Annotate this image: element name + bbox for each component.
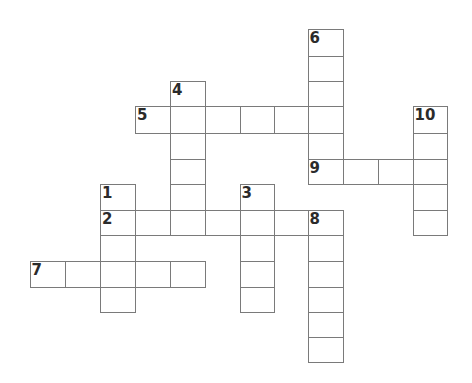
crossword-cell[interactable] <box>413 133 448 160</box>
crossword-cell[interactable] <box>135 261 171 288</box>
crossword-cell[interactable] <box>308 81 344 107</box>
crossword-cell[interactable] <box>413 159 448 185</box>
crossword-cell[interactable]: 4 <box>170 81 206 107</box>
crossword-cell[interactable]: 5 <box>135 106 171 134</box>
crossword-cell[interactable] <box>205 210 241 236</box>
crossword-cell[interactable]: 2 <box>100 210 136 236</box>
crossword-cell[interactable] <box>240 106 275 134</box>
crossword-cell[interactable]: 3 <box>240 184 275 211</box>
crossword-cell[interactable] <box>343 159 379 185</box>
clue-number: 5 <box>137 106 147 124</box>
crossword-cell[interactable] <box>308 56 344 82</box>
clue-number: 3 <box>242 184 252 202</box>
clue-number: 8 <box>310 210 320 228</box>
crossword-cell[interactable] <box>65 261 102 288</box>
crossword-cell[interactable] <box>308 133 344 160</box>
crossword-cell[interactable] <box>413 184 448 211</box>
crossword-cell[interactable] <box>100 287 136 313</box>
crossword-cell[interactable] <box>240 287 275 313</box>
clue-number: 1 <box>102 184 112 202</box>
crossword-cell[interactable] <box>170 261 206 288</box>
crossword-cell[interactable] <box>308 287 344 313</box>
clue-number: 9 <box>310 159 320 177</box>
crossword-cell[interactable] <box>308 337 344 363</box>
crossword-cell[interactable] <box>274 106 309 134</box>
crossword-cell[interactable] <box>308 235 344 262</box>
clue-number: 2 <box>102 210 112 228</box>
crossword-cell[interactable] <box>378 159 414 185</box>
clue-number: 6 <box>310 29 320 47</box>
crossword-cell[interactable] <box>135 210 171 236</box>
crossword-cell[interactable] <box>170 106 206 134</box>
crossword-cell[interactable] <box>240 210 275 236</box>
crossword-grid: 12834569710 <box>0 0 472 383</box>
crossword-cell[interactable]: 6 <box>308 29 344 57</box>
crossword-cell[interactable] <box>205 106 241 134</box>
crossword-cell[interactable]: 8 <box>308 210 344 236</box>
crossword-cell[interactable]: 7 <box>30 261 66 288</box>
crossword-cell[interactable] <box>240 235 275 262</box>
crossword-cell[interactable] <box>170 210 206 236</box>
crossword-cell[interactable] <box>240 261 275 288</box>
crossword-cell[interactable] <box>308 261 344 288</box>
crossword-cell[interactable] <box>413 210 448 236</box>
crossword-cell[interactable] <box>170 159 206 185</box>
clue-number: 10 <box>415 106 436 124</box>
crossword-cell[interactable]: 1 <box>100 184 136 211</box>
crossword-cell[interactable] <box>170 184 206 211</box>
crossword-cell[interactable] <box>170 133 206 160</box>
crossword-cell[interactable] <box>100 261 136 288</box>
crossword-cell[interactable] <box>308 106 344 134</box>
clue-number: 4 <box>172 81 182 99</box>
crossword-cell[interactable]: 9 <box>308 159 344 185</box>
crossword-cell[interactable] <box>274 210 309 236</box>
clue-number: 7 <box>32 261 42 279</box>
crossword-cell[interactable] <box>100 235 136 262</box>
crossword-cell[interactable] <box>308 312 344 338</box>
crossword-cell[interactable]: 10 <box>413 106 448 134</box>
